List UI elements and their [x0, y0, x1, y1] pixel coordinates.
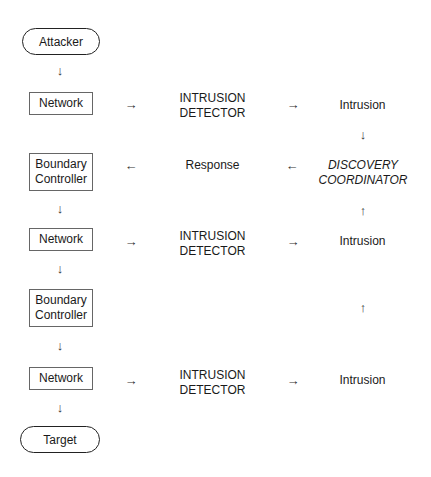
intrusion-label-2: Intrusion — [325, 234, 400, 249]
arrow-left-icon: ← — [123, 159, 139, 172]
arrow-down-icon: ↓ — [52, 339, 68, 352]
arrow-left-icon: ← — [284, 159, 300, 172]
arrow-down-icon: ↓ — [355, 128, 371, 141]
intrusion-detector-2: INTRUSION DETECTOR — [170, 229, 255, 259]
arrow-down-icon: ↓ — [52, 262, 68, 275]
intrusion-label-1: Intrusion — [325, 98, 400, 113]
intrusion-detector-1: INTRUSION DETECTOR — [170, 91, 255, 121]
detector-label-line1: INTRUSION — [170, 229, 255, 244]
arrow-right-icon: → — [123, 98, 139, 111]
network-node-2: Network — [29, 228, 93, 251]
attacker-label: Attacker — [39, 35, 83, 49]
coordinator-label-line2: COORDINATOR — [315, 173, 411, 188]
detector-label-line1: INTRUSION — [170, 368, 255, 383]
network-node-1: Network — [29, 92, 93, 115]
response-label: Response — [175, 158, 250, 173]
arrow-down-icon: ↓ — [52, 401, 68, 414]
network-label-3: Network — [39, 371, 83, 386]
arrow-right-icon: → — [123, 235, 139, 248]
network-label-2: Network — [39, 232, 83, 247]
boundary-controller-1: Boundary Controller — [29, 153, 93, 191]
detector-label-line1: INTRUSION — [170, 91, 255, 106]
coordinator-label-line1: DISCOVERY — [315, 158, 411, 173]
arrow-down-icon: ↓ — [52, 202, 68, 215]
attacker-node: Attacker — [22, 28, 100, 55]
arrow-up-icon: ↑ — [355, 204, 371, 217]
arrow-right-icon: → — [285, 235, 301, 248]
network-label-1: Network — [39, 96, 83, 111]
boundary-controller-2: Boundary Controller — [29, 289, 93, 327]
arrow-right-icon: → — [285, 98, 301, 111]
boundary-label-line2: Controller — [35, 172, 87, 187]
target-node: Target — [20, 426, 100, 453]
boundary-label-line1: Boundary — [35, 157, 86, 172]
arrow-up-icon: ↑ — [355, 301, 371, 314]
arrow-down-icon: ↓ — [52, 64, 68, 77]
target-label: Target — [43, 433, 76, 447]
detector-label-line2: DETECTOR — [170, 106, 255, 121]
detector-label-line2: DETECTOR — [170, 244, 255, 259]
boundary-label-line2: Controller — [35, 308, 87, 323]
arrow-right-icon: → — [123, 374, 139, 387]
intrusion-detector-3: INTRUSION DETECTOR — [170, 368, 255, 398]
detector-label-line2: DETECTOR — [170, 383, 255, 398]
discovery-coordinator: DISCOVERY COORDINATOR — [315, 158, 411, 188]
boundary-label-line1: Boundary — [35, 293, 86, 308]
intrusion-label-3: Intrusion — [325, 373, 400, 388]
arrow-right-icon: → — [285, 374, 301, 387]
network-node-3: Network — [29, 367, 93, 390]
